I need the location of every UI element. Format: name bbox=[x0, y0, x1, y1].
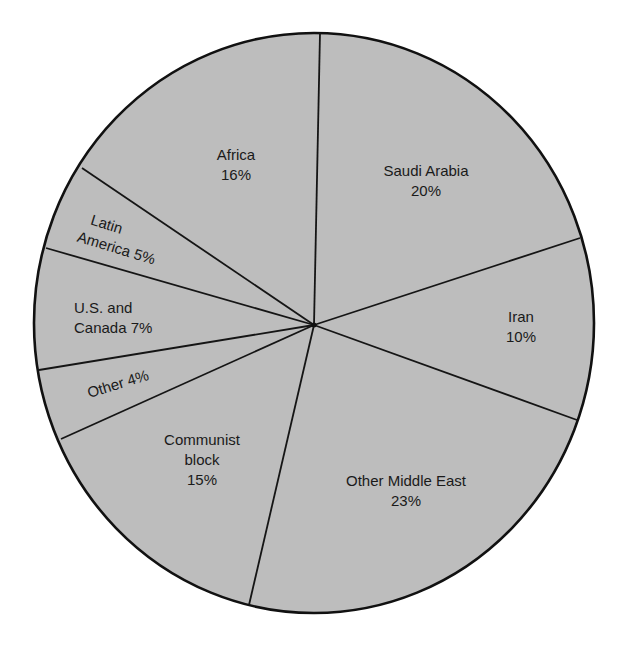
label-africa-value: 16% bbox=[221, 166, 251, 183]
pie-chart: Africa 16% Saudi Arabia 20% Iran 10% Oth… bbox=[0, 0, 628, 647]
label-communist-line1: Communist bbox=[164, 431, 241, 448]
label-iran-name: Iran bbox=[508, 308, 534, 325]
label-iran-value: 10% bbox=[506, 328, 536, 345]
label-saudi-value: 20% bbox=[411, 182, 441, 199]
label-africa-name: Africa bbox=[217, 146, 256, 163]
label-othermideast-value: 23% bbox=[391, 492, 421, 509]
label-communist-line2: block bbox=[184, 451, 220, 468]
label-communist-value: 15% bbox=[187, 471, 217, 488]
label-uscanada-line1: U.S. and bbox=[74, 299, 132, 316]
label-othermideast-name: Other Middle East bbox=[346, 472, 467, 489]
label-saudi-name: Saudi Arabia bbox=[383, 162, 469, 179]
pie-center-dot bbox=[312, 323, 317, 328]
label-uscanada-line2: Canada 7% bbox=[74, 319, 152, 336]
